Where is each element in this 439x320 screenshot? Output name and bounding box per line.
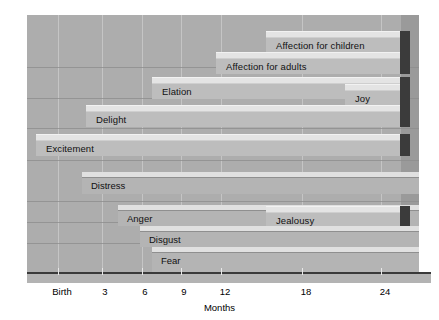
rule-5 [27,201,419,202]
bar-delight[interactable]: Delight [86,105,400,127]
axis-tick-label-9: 9 [181,286,186,297]
bar-affection-for-children[interactable]: Affection for children [266,31,400,53]
bar-front-face [82,177,419,194]
bar-label: Affection for children [276,40,365,51]
bar-label: Distress [91,180,125,191]
axis-tick-label-6: 6 [142,286,147,297]
bar-label: Anger [127,213,152,224]
bar-label: Affection for adults [226,61,307,72]
rule-3 [27,128,419,129]
bar-side-face [400,52,410,74]
rule-4 [27,160,419,161]
bar-side-face [400,105,410,127]
bar-label: Excitement [46,143,94,154]
bar-affection-for-adults[interactable]: Affection for adults [216,52,400,74]
bar-front-face [86,111,400,127]
bar-fear[interactable]: Fear [152,247,419,273]
bar-joy[interactable]: Joy [345,84,400,106]
bar-side-face [400,31,410,53]
bar-label: Jealousy [276,215,314,226]
bar-jealousy[interactable]: Jealousy [266,206,400,227]
bar-label: Elation [162,86,192,97]
axis-tick-label-birth: Birth [52,286,72,297]
axis-tick-label-18: 18 [301,286,312,297]
axis-base-platform [27,272,431,284]
bar-side-face [400,206,410,227]
bar-side-face [400,84,410,106]
tick-3 [102,268,103,275]
axis-tick-label-3: 3 [102,286,107,297]
tick-6 [142,268,143,275]
bar-label: Delight [96,114,126,125]
tick-birth [58,268,59,275]
axis-tick-label-24: 24 [380,286,391,297]
bar-front-face [140,231,419,247]
bar-distress[interactable]: Distress [82,172,419,194]
bar-front-face [152,252,419,273]
bar-label: Disgust [149,234,181,245]
bar-excitement[interactable]: Excitement [36,134,400,156]
axis-tick-label-12: 12 [220,286,231,297]
tick-12 [221,268,222,275]
bar-disgust[interactable]: Disgust [140,226,419,247]
emotional-development-chart: Affection for children Affection for adu… [0,0,439,320]
tick-9 [181,268,182,275]
tick-24 [381,268,382,275]
tick-18 [302,268,303,275]
bar-front-face [345,90,400,106]
axis-title-months: Months [0,302,439,313]
bar-label: Joy [355,93,370,104]
bar-side-face [400,134,410,156]
base-front-face [27,274,431,283]
bar-label: Fear [161,255,181,266]
